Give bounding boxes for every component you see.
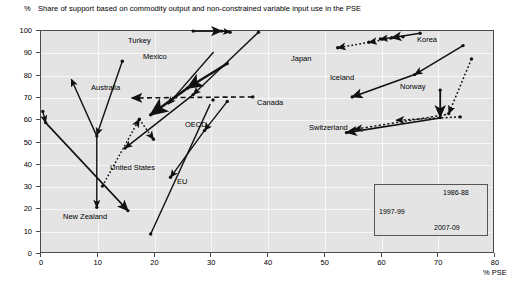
country-label-newzealand: New Zealand <box>63 212 107 221</box>
country-label-oecd: OECD <box>185 120 207 129</box>
country-label-japan: Japan <box>291 54 311 63</box>
country-label-canada: Canada <box>257 98 283 107</box>
y-tick-30: 30 <box>8 182 32 191</box>
country-label-iceland: Iceland <box>330 73 354 82</box>
country-label-norway: Norway <box>400 82 425 91</box>
x-tick-30: 30 <box>199 258 223 267</box>
country-label-australia: Australia <box>91 83 120 92</box>
y-tick-70: 70 <box>8 93 32 102</box>
legend-label-1986-88: 1986-88 <box>443 189 469 196</box>
y-tick-80: 80 <box>8 71 32 80</box>
legend-label-1997-99: 1997-99 <box>379 208 405 215</box>
y-tick-10: 10 <box>8 227 32 236</box>
country-label-eu: EU <box>177 177 187 186</box>
y-axis-unit-label: % <box>24 4 31 13</box>
country-label-mexico: Mexico <box>143 52 167 61</box>
chart-subtitle: Share of support based on commodity outp… <box>38 4 361 13</box>
y-tick-40: 40 <box>8 160 32 169</box>
country-label-switzerland: Switzerland <box>309 123 348 132</box>
x-tick-0: 0 <box>29 258 53 267</box>
y-tick-60: 60 <box>8 115 32 124</box>
country-label-turkey: Turkey <box>128 36 151 45</box>
y-tick-50: 50 <box>8 138 32 147</box>
y-tick-0: 0 <box>8 249 32 258</box>
country-label-korea: Korea <box>417 35 437 44</box>
y-tick-90: 90 <box>8 48 32 57</box>
y-tick-20: 20 <box>8 204 32 213</box>
x-tick-10: 10 <box>86 258 110 267</box>
x-tick-40: 40 <box>256 258 280 267</box>
chart-figure: % Share of support based on commodity ou… <box>0 0 518 288</box>
country-label-unitedstates: United States <box>110 163 155 172</box>
y-tick-100: 100 <box>8 26 32 35</box>
x-tick-60: 60 <box>370 258 394 267</box>
legend-label-2007-09: 2007-09 <box>434 224 460 231</box>
x-tick-50: 50 <box>313 258 337 267</box>
x-axis-title: % PSE <box>483 268 507 277</box>
x-tick-80: 80 <box>483 258 507 267</box>
x-tick-70: 70 <box>426 258 450 267</box>
x-tick-20: 20 <box>143 258 167 267</box>
